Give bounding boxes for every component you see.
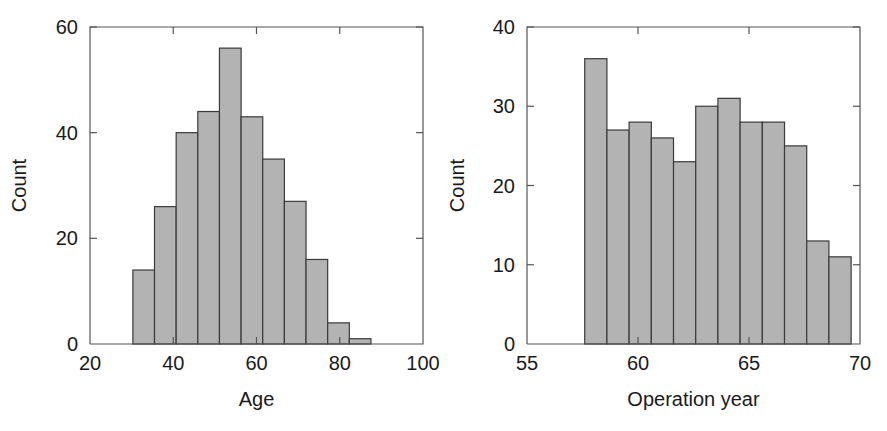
y-axis-title: Count (8, 158, 30, 212)
x-tick-label: 60 (245, 352, 267, 374)
histogram-bar (328, 323, 350, 344)
histogram-bar (241, 117, 263, 344)
x-tick-label: 70 (849, 352, 871, 374)
x-tick-label: 80 (329, 352, 351, 374)
histogram-figure: 020406020406080100AgeCount 0102030405560… (0, 0, 887, 431)
y-tick-label: 30 (493, 95, 515, 117)
histogram-bar (674, 162, 696, 344)
histogram-bar (306, 259, 328, 344)
histogram-bar (740, 122, 762, 344)
histogram-bar (651, 138, 673, 344)
histogram-bar (785, 146, 807, 344)
x-tick-label: 55 (516, 352, 538, 374)
operation-year-histogram-panel: 01020304055606570Operation yearCount (442, 0, 887, 431)
x-tick-label: 100 (406, 352, 439, 374)
x-tick-label: 40 (162, 352, 184, 374)
histogram-bar (629, 122, 651, 344)
y-tick-label: 0 (504, 333, 515, 355)
y-tick-label: 10 (493, 254, 515, 276)
x-tick-label: 20 (79, 352, 101, 374)
x-axis-title: Age (239, 388, 275, 410)
bars-group (133, 48, 371, 344)
histogram-bar (607, 130, 629, 344)
histogram-bar (829, 257, 851, 344)
y-axis-title: Count (446, 158, 468, 212)
histogram-bar (155, 207, 177, 344)
histogram-bar (263, 159, 285, 344)
histogram-bar (807, 241, 829, 344)
histogram-bar (696, 106, 718, 344)
y-tick-label: 20 (56, 227, 78, 249)
age-histogram-svg: 020406020406080100AgeCount (0, 0, 445, 431)
y-tick-label: 40 (56, 122, 78, 144)
x-axis-title: Operation year (627, 388, 760, 410)
histogram-bar (176, 133, 198, 344)
operation-year-histogram-svg: 01020304055606570Operation yearCount (442, 0, 887, 431)
age-histogram-panel: 020406020406080100AgeCount (0, 0, 445, 431)
y-tick-label: 20 (493, 175, 515, 197)
y-tick-label: 40 (493, 16, 515, 38)
histogram-bar (133, 270, 155, 344)
histogram-bar (585, 59, 607, 344)
x-tick-label: 60 (627, 352, 649, 374)
histogram-bar (284, 201, 306, 344)
histogram-bar (219, 48, 241, 344)
histogram-bar (762, 122, 784, 344)
histogram-bar (718, 98, 740, 344)
y-tick-label: 60 (56, 16, 78, 38)
bars-group (585, 59, 851, 344)
histogram-bar (198, 112, 220, 344)
x-tick-label: 65 (738, 352, 760, 374)
y-tick-label: 0 (67, 333, 78, 355)
histogram-bar (349, 339, 371, 344)
